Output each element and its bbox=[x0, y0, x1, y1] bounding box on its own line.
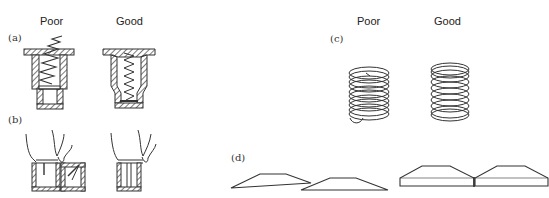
panel-b-good-box bbox=[117, 163, 141, 191]
panel-a-poor-label: Poor bbox=[40, 15, 63, 27]
panel-c-good-spring-icon bbox=[431, 63, 469, 121]
panel-d-poor-drawing bbox=[231, 174, 388, 190]
diagram-canvas bbox=[0, 0, 549, 198]
panel-c-poor-label: Poor bbox=[357, 15, 380, 27]
panel-d-good-drawing bbox=[400, 166, 548, 187]
panel-c-poor-spring-icon bbox=[349, 67, 389, 123]
panel-a-label: (a) bbox=[8, 32, 22, 43]
panel-c-label: (c) bbox=[330, 33, 343, 44]
panel-a-poor-drawing bbox=[24, 49, 74, 109]
spring-tangled-icon bbox=[40, 36, 62, 84]
panel-a-good-label: Good bbox=[116, 15, 143, 27]
panel-d-label: (d) bbox=[231, 152, 245, 163]
panel-c-good-label: Good bbox=[434, 15, 461, 27]
spring-seated-icon bbox=[124, 53, 134, 100]
panel-b-label: (b) bbox=[8, 114, 22, 125]
